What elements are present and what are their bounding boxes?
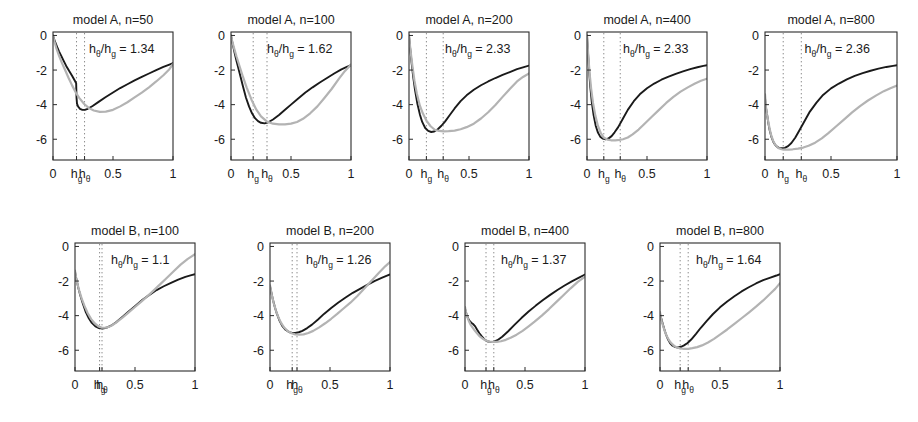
curve-gray <box>465 277 585 342</box>
panel-title: model A, n=50 <box>73 13 153 27</box>
x-tick-label: hθ <box>795 167 807 184</box>
ratio-annotation: hθ/hg = 1.26 <box>306 253 371 270</box>
x-tick-label: 0 <box>72 378 79 392</box>
y-tick-label: -4 <box>253 309 264 323</box>
x-tick-label: 0 <box>462 378 469 392</box>
x-tick-label: 1 <box>894 167 901 181</box>
x-tick-label: 1 <box>582 378 589 392</box>
x-tick-label: 1 <box>192 378 199 392</box>
y-tick-label: -4 <box>448 309 459 323</box>
panel-title: model B, n=400 <box>481 224 569 238</box>
y-tick-label: -4 <box>58 309 69 323</box>
x-tick-label: 0 <box>50 167 57 181</box>
ratio-annotation: hθ/hg = 1.62 <box>267 42 332 59</box>
panel-title: model B, n=800 <box>676 224 764 238</box>
y-tick-label: -6 <box>748 133 759 147</box>
y-tick-label: 0 <box>647 240 654 254</box>
y-tick-label: 0 <box>40 29 47 43</box>
ratio-annotation: hθ/hg = 2.33 <box>623 42 688 59</box>
y-tick-label: -6 <box>392 133 403 147</box>
chart-panel-model-b-n400: model B, n=4000-2-4-60hghθ0.51hθ/hg = 1.… <box>431 221 595 401</box>
curve-dark <box>53 35 173 109</box>
x-tick-label: 1 <box>387 378 394 392</box>
ratio-annotation: hθ/hg = 2.36 <box>805 42 870 59</box>
curve-dark <box>465 274 585 341</box>
x-tick-label: hg <box>777 167 789 184</box>
ratio-annotation: hθ/hg = 2.33 <box>445 42 510 59</box>
x-tick-label: hθ <box>437 167 449 184</box>
chart-panel-model-a-n800: model A, n=8000-2-4-60hghθ0.51hθ/hg = 2.… <box>731 10 907 190</box>
y-tick-label: -2 <box>253 275 264 289</box>
ratio-annotation: hθ/hg = 1.64 <box>696 253 761 270</box>
x-tick-label: 0.5 <box>460 167 477 181</box>
x-tick-label: hg <box>247 167 259 184</box>
x-tick-label: hθ <box>96 378 108 395</box>
y-tick-label: -6 <box>253 344 264 358</box>
x-tick-label: 0.5 <box>104 167 121 181</box>
x-tick-label: 1 <box>526 167 533 181</box>
x-tick-label: 0.5 <box>638 167 655 181</box>
x-tick-label: 0 <box>762 167 769 181</box>
x-tick-label: 0 <box>657 378 664 392</box>
y-tick-label: 0 <box>396 29 403 43</box>
x-tick-label: 1 <box>170 167 177 181</box>
y-tick-label: 0 <box>62 240 69 254</box>
x-tick-label: 0 <box>584 167 591 181</box>
y-tick-label: -4 <box>570 98 581 112</box>
y-tick-label: 0 <box>452 240 459 254</box>
y-tick-label: -2 <box>643 275 654 289</box>
x-tick-label: 0.5 <box>516 378 533 392</box>
chart-panel-model-a-n50: model A, n=500-2-4-60hghθ0.51hθ/hg = 1.3… <box>19 10 183 190</box>
x-tick-label: 0.5 <box>321 378 338 392</box>
ratio-annotation: hθ/hg = 1.37 <box>501 253 566 270</box>
y-tick-label: 0 <box>218 29 225 43</box>
x-tick-label: 0.5 <box>126 378 143 392</box>
x-tick-label: hθ <box>261 167 273 184</box>
chart-panel-model-a-n400: model A, n=4000-2-4-60hghθ0.51hθ/hg = 2.… <box>553 10 717 190</box>
x-tick-label: hg <box>421 167 433 184</box>
panel-title: model A, n=400 <box>603 13 690 27</box>
panel-title: model A, n=800 <box>787 13 874 27</box>
panel-title: model B, n=200 <box>286 224 374 238</box>
x-tick-label: 0 <box>267 378 274 392</box>
x-tick-label: hg <box>598 167 610 184</box>
chart-panel-model-b-n200: model B, n=2000-2-4-60hghθ0.51hθ/hg = 1.… <box>236 221 400 401</box>
y-tick-label: -4 <box>214 98 225 112</box>
y-tick-label: -2 <box>214 64 225 78</box>
figure-panel-grid: model A, n=500-2-4-60hghθ0.51hθ/hg = 1.3… <box>0 0 918 422</box>
panel-title: model A, n=200 <box>425 13 512 27</box>
x-tick-label: 0 <box>228 167 235 181</box>
chart-panel-model-a-n200: model A, n=2000-2-4-60hghθ0.51hθ/hg = 2.… <box>375 10 539 190</box>
y-tick-label: -2 <box>36 64 47 78</box>
y-tick-label: -6 <box>570 133 581 147</box>
x-tick-label: 1 <box>704 167 711 181</box>
y-tick-label: 0 <box>257 240 264 254</box>
curve-gray <box>270 262 390 335</box>
y-tick-label: -2 <box>748 64 759 78</box>
y-tick-label: -2 <box>58 275 69 289</box>
ratio-annotation: hθ/hg = 1.34 <box>89 42 154 59</box>
y-tick-label: -6 <box>36 133 47 147</box>
y-tick-label: -2 <box>448 275 459 289</box>
curve-dark <box>660 274 780 347</box>
y-tick-label: -4 <box>392 98 403 112</box>
y-tick-label: -6 <box>448 344 459 358</box>
x-tick-label: 0.5 <box>282 167 299 181</box>
curve-dark <box>270 274 390 332</box>
chart-panel-model-a-n100: model A, n=1000-2-4-60hghθ0.51hθ/hg = 1.… <box>197 10 361 190</box>
y-tick-label: -2 <box>570 64 581 78</box>
y-tick-label: 0 <box>752 29 759 43</box>
curve-dark <box>765 65 897 148</box>
y-tick-label: -4 <box>748 98 759 112</box>
x-tick-label: 0.5 <box>711 378 728 392</box>
chart-panel-model-b-n100: model B, n=1000-2-4-60hghθ0.51hθ/hg = 1.… <box>41 221 205 401</box>
y-tick-label: -4 <box>643 309 654 323</box>
x-tick-label: 1 <box>348 167 355 181</box>
ratio-annotation: hθ/hg = 1.1 <box>111 253 170 270</box>
curve-gray <box>660 283 780 349</box>
y-tick-label: -6 <box>58 344 69 358</box>
y-tick-label: 0 <box>574 29 581 43</box>
chart-panel-model-b-n800: model B, n=8000-2-4-60hghθ0.51hθ/hg = 1.… <box>626 221 790 401</box>
y-tick-label: -4 <box>36 98 47 112</box>
panel-title: model A, n=100 <box>247 13 334 27</box>
